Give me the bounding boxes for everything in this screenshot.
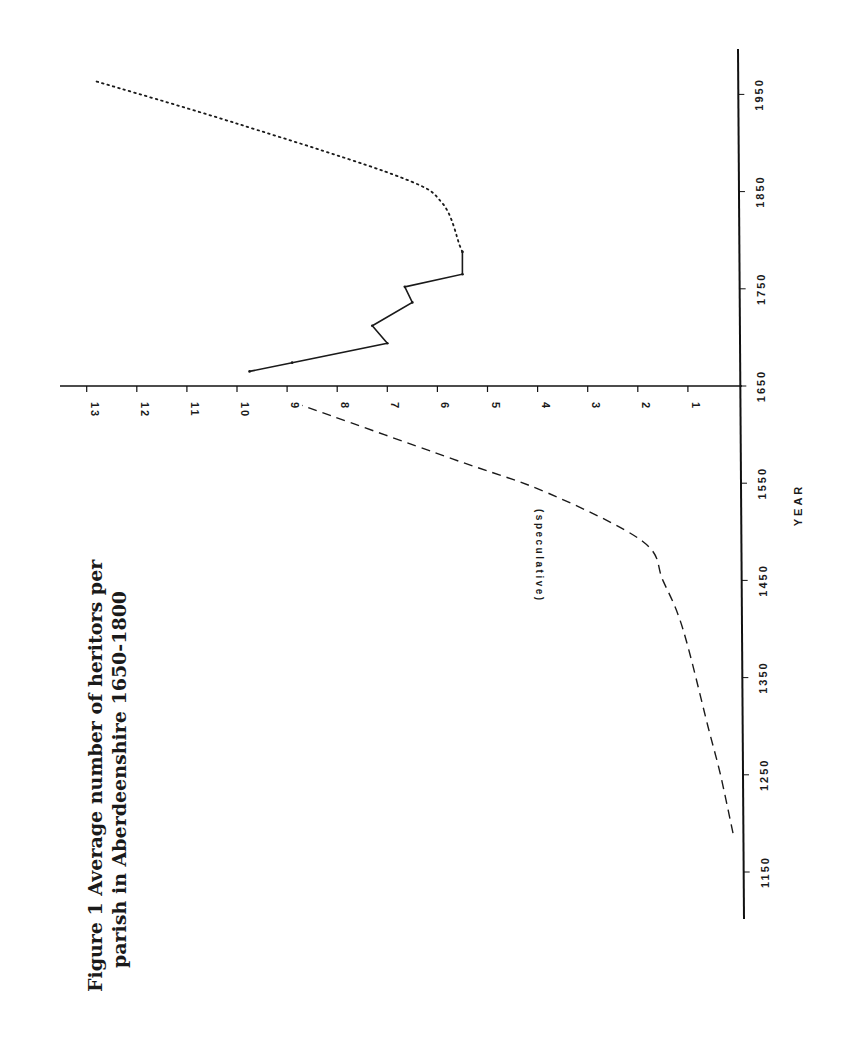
figure-title: Figure 1 Average number of heritors per … — [84, 559, 130, 992]
data-point — [371, 324, 374, 327]
series-observed-line — [250, 252, 463, 372]
speculative-annotation: (speculative) — [534, 509, 545, 603]
value-tick-label: 11 — [189, 402, 201, 418]
value-tick-label: 12 — [139, 402, 151, 418]
chart: Figure 1 Average number of heritors per … — [0, 0, 848, 1041]
figure-title-line-1: Figure 1 Average number of heritors per — [84, 559, 106, 992]
value-tick-label: 6 — [439, 402, 451, 410]
year-tick-label: 1950 — [753, 78, 765, 110]
series-projected-line — [94, 81, 462, 252]
year-axis-line — [738, 49, 744, 919]
value-axis-ticks: 12345678910111213 — [87, 386, 702, 418]
value-tick-label: 4 — [540, 402, 552, 410]
figure-title-line-2: parish in Aberdeenshire 1650-1800 — [108, 591, 130, 968]
value-tick-label: 3 — [590, 402, 602, 410]
year-axis-title: YEAR — [792, 484, 804, 527]
value-tick-label: 7 — [389, 402, 401, 410]
year-tick-label: 1150 — [759, 856, 771, 888]
value-tick-label: 13 — [89, 402, 101, 418]
value-tick-label: 5 — [490, 402, 502, 410]
series-layer — [94, 81, 733, 833]
year-tick-label: 1450 — [757, 564, 769, 596]
data-point — [404, 286, 407, 289]
value-tick-label: 9 — [289, 402, 301, 410]
year-tick-label: 1550 — [756, 467, 768, 499]
year-tick-label: 1650 — [755, 370, 767, 402]
data-point — [291, 361, 294, 364]
value-tick-label: 2 — [640, 402, 652, 410]
data-point — [248, 370, 251, 373]
year-tick-label: 1750 — [755, 273, 767, 305]
value-tick-label: 1 — [690, 402, 702, 410]
year-tick-label: 1350 — [757, 661, 769, 693]
data-point — [386, 342, 389, 345]
data-point — [461, 273, 464, 276]
year-tick-label: 1850 — [754, 175, 766, 207]
value-tick-label: 10 — [239, 402, 251, 418]
data-point — [411, 301, 414, 304]
series-speculative-line — [302, 405, 733, 833]
year-tick-label: 1250 — [758, 759, 770, 791]
chart-canvas: Figure 1 Average number of heritors per … — [0, 0, 848, 1041]
value-tick-label: 8 — [339, 402, 351, 410]
